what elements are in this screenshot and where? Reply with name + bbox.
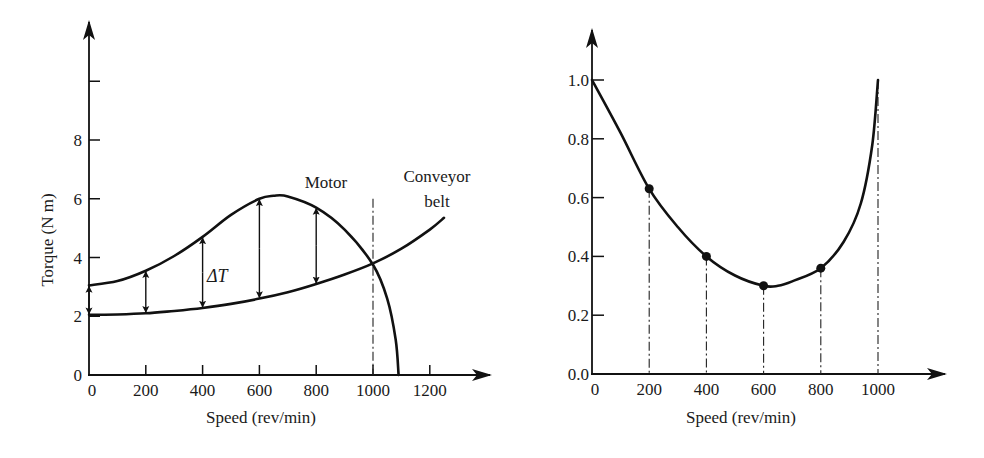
right-y-tick-label: 1.0 <box>568 71 589 90</box>
left-y-tick-label: 0 <box>74 366 83 385</box>
right-x-tick-label: 600 <box>751 380 777 399</box>
belt-label: belt <box>424 192 450 211</box>
left-y-axis-title: Torque (N m) <box>38 193 57 286</box>
right-axes <box>591 30 945 375</box>
left-y-tick-label: 2 <box>74 307 83 326</box>
right-x-tick-label: 200 <box>636 380 662 399</box>
left-x-axis-title: Speed (rev/min) <box>206 408 316 427</box>
right-x-tick-label: 800 <box>808 380 834 399</box>
right-series <box>592 80 878 287</box>
left-x-tick-label: 400 <box>190 381 216 400</box>
conveyor-belt-curve <box>89 218 444 315</box>
right-x-tick-label: 400 <box>694 380 720 399</box>
left-y-tick-label: 8 <box>74 131 83 150</box>
left-series <box>89 195 444 375</box>
right-x-tick-label: 1000 <box>861 380 895 399</box>
delta-torque-arrows <box>89 200 316 314</box>
right-y-tick-label: 0.8 <box>568 130 589 149</box>
data-point-marker <box>645 184 654 193</box>
left-x-tick-label: 200 <box>133 381 159 400</box>
right-x-tick-label: 0 <box>591 380 600 399</box>
left-x-tick-label: 0 <box>88 381 97 400</box>
left-x-tick-label: 1200 <box>413 381 447 400</box>
figure: 02004006008001000120002468 Speed (rev/mi… <box>0 0 984 458</box>
left-x-tick-label: 800 <box>303 381 329 400</box>
inverse-delta-torque-chart: 020040060080010000.00.20.40.60.81.0 Spee… <box>15 0 945 427</box>
right-ticks: 020040060080010000.00.20.40.60.81.0 <box>568 71 895 399</box>
inverse-delta-t-curve <box>592 80 878 287</box>
left-x-tick-label: 600 <box>247 381 273 400</box>
left-ticks: 02004006008001000120002468 <box>74 81 447 400</box>
right-x-axis-title: Speed (rev/min) <box>686 408 796 427</box>
data-point-marker <box>816 264 825 273</box>
torque-speed-chart: 02004006008001000120002468 Speed (rev/mi… <box>38 22 490 427</box>
right-droplines <box>649 80 878 374</box>
right-y-tick-label: 0.4 <box>568 247 590 266</box>
left-x-tick-label: 1000 <box>356 381 390 400</box>
right-y-tick-label: 0.6 <box>568 189 589 208</box>
data-point-marker <box>759 281 768 290</box>
left-y-tick-label: 4 <box>74 249 83 268</box>
left-y-tick-label: 6 <box>74 190 83 209</box>
motor-label: Motor <box>305 173 348 192</box>
right-y-tick-label: 0.2 <box>568 306 589 325</box>
conveyor-label: Conveyor <box>403 167 470 186</box>
data-point-marker <box>702 252 711 261</box>
motor-curve <box>89 195 399 375</box>
delta-t-label: ΔT <box>206 266 230 286</box>
right-y-tick-label: 0.0 <box>568 365 589 384</box>
